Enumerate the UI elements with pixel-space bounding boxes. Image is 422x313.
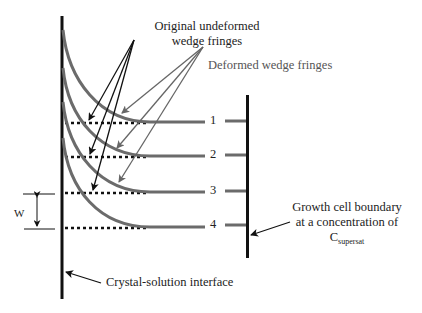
growth-cell-boundary-label: Growth cell boundary at a concentration … [288,200,406,249]
c-subscript: supersat [338,237,364,246]
fringe-number-3: 3 [210,183,216,198]
deformed-fringes-label: Deformed wedge fringes [208,58,332,73]
fringe-number-4: 4 [210,217,216,232]
fringe-number-2: 2 [210,147,216,162]
w-spacing-marker [23,194,55,229]
fringe-number-1: 1 [210,113,216,128]
growth-label-line1: Growth cell boundary [288,200,406,215]
growth-label-line2: at a concentration of [288,215,406,230]
w-label: W [14,206,24,221]
interface-pointer-arrow [66,272,101,283]
original-fringes-label-line2: wedge fringes [137,34,277,49]
original-fringes-label: Original undeformed wedge fringes [137,19,277,49]
deformed-fringe-arrows [117,47,203,182]
crystal-solution-interface-label: Crystal-solution interface [106,275,233,290]
growth-label-line3: Csupersat [288,230,406,249]
boundary-pointer-arrow [251,222,290,235]
original-fringe-arrows [89,40,134,190]
fringe-stubs [225,121,246,225]
c-symbol: C [330,230,338,244]
original-fringes-label-line1: Original undeformed [137,19,277,34]
